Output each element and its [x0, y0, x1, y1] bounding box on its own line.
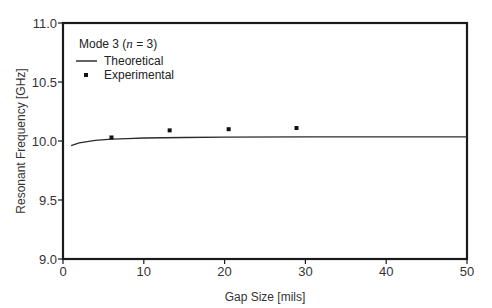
experimental-point — [109, 135, 113, 139]
x-tick-label: 10 — [137, 264, 151, 279]
experimental-point — [227, 127, 231, 131]
legend-title-prefix: Mode 3 ( — [79, 37, 126, 51]
x-axis: 01020304050 — [59, 259, 474, 279]
theoretical-line — [71, 137, 467, 146]
legend-item-experimental: Experimental — [104, 68, 174, 82]
legend-title: Mode 3 (n = 3) — [79, 36, 157, 51]
x-tick-label: 0 — [59, 264, 66, 279]
y-tick-label: 11.0 — [33, 16, 57, 31]
x-tick-label: 30 — [298, 264, 312, 279]
x-axis-title: Gap Size [mils] — [225, 290, 306, 304]
legend: Mode 3 (n = 3) Theoretical Experimental — [76, 36, 174, 82]
theoretical-curve — [71, 137, 467, 146]
y-tick-label: 9.0 — [39, 252, 57, 267]
legend-item-theoretical: Theoretical — [104, 54, 163, 68]
legend-title-suffix: = 3) — [133, 37, 157, 51]
y-tick-label: 10.0 — [32, 134, 57, 149]
y-tick-label: 9.5 — [39, 193, 57, 208]
x-tick-label: 50 — [460, 264, 474, 279]
y-tick-label: 10.5 — [32, 75, 57, 90]
experimental-point — [168, 128, 172, 132]
x-tick-label: 40 — [379, 264, 393, 279]
y-axis: 9.09.510.010.511.0 — [32, 16, 63, 267]
y-axis-title: Resonant Frequency [GHz] — [14, 68, 28, 213]
experimental-point — [295, 126, 299, 130]
x-tick-label: 20 — [217, 264, 231, 279]
chart: 9.09.510.010.511.0 01020304050 Gap Size … — [0, 0, 492, 308]
legend-square-marker-icon — [84, 73, 88, 77]
